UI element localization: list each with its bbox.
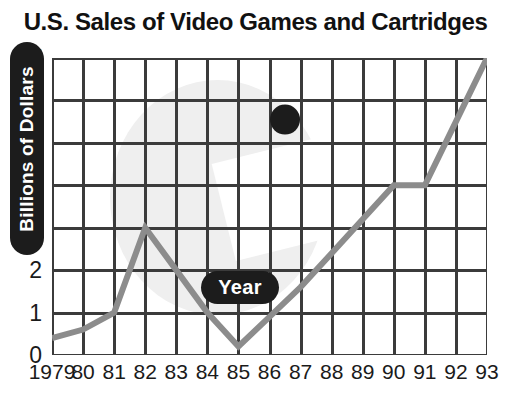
x-axis-label-pill: Year bbox=[201, 271, 279, 304]
chart-title: U.S. Sales of Video Games and Cartridges bbox=[0, 8, 511, 36]
plot-area: 01234567 1979808182838485868788899091929… bbox=[52, 58, 487, 355]
x-tick-label: 81 bbox=[102, 361, 125, 382]
point-marker bbox=[270, 105, 300, 135]
x-tick-label: 88 bbox=[320, 361, 343, 382]
x-tick-label: 83 bbox=[165, 361, 188, 382]
x-tick-label: 85 bbox=[227, 361, 250, 382]
x-axis-label-text: Year bbox=[218, 276, 261, 299]
x-tick-label: 87 bbox=[289, 361, 312, 382]
x-tick-label: 89 bbox=[351, 361, 374, 382]
x-tick-label: 80 bbox=[71, 361, 94, 382]
x-tick-label: 92 bbox=[444, 361, 467, 382]
y-axis-label-pill: Billions of Dollars bbox=[10, 42, 44, 255]
x-tick-label: 82 bbox=[134, 361, 157, 382]
x-tick-label: 86 bbox=[258, 361, 281, 382]
y-tick-label: 2 bbox=[29, 259, 42, 282]
x-tick-label: 93 bbox=[475, 361, 498, 382]
x-tick-label: 91 bbox=[413, 361, 436, 382]
x-tick-label: 1979 bbox=[29, 361, 76, 382]
chart-figure: U.S. Sales of Video Games and Cartridges… bbox=[0, 0, 511, 407]
x-tick-label: 84 bbox=[196, 361, 219, 382]
x-tick-label: 90 bbox=[382, 361, 405, 382]
series-line bbox=[52, 58, 487, 347]
data-series-layer bbox=[52, 58, 487, 355]
y-tick-label: 1 bbox=[29, 301, 42, 324]
y-axis-label-text: Billions of Dollars bbox=[16, 66, 38, 231]
